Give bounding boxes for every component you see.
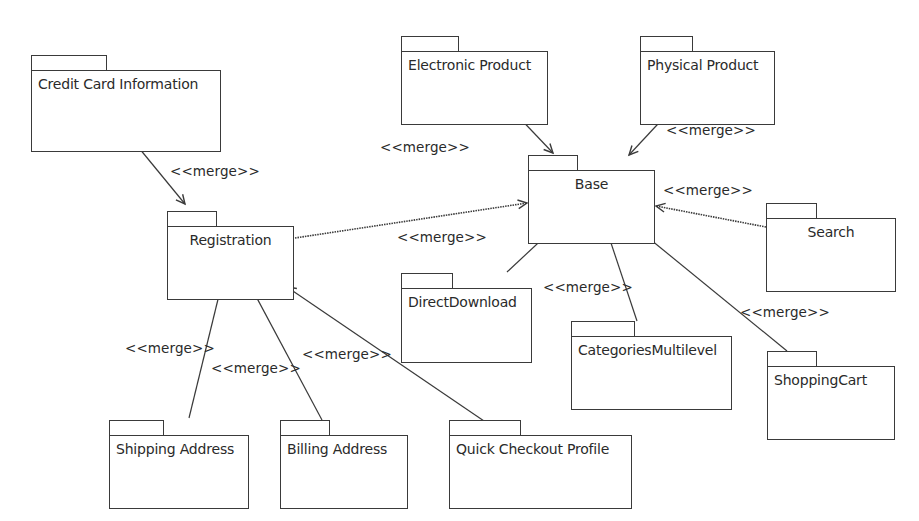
merge-stereotype-label: <<merge>> (125, 340, 215, 356)
merge-stereotype-label: <<merge>> (663, 182, 753, 198)
package-quick-checkout-profile[interactable]: Quick Checkout Profile (449, 420, 632, 509)
package-body: ShoppingCart (767, 366, 895, 440)
package-name: Electronic Product (408, 57, 531, 73)
merge-relation-line (656, 206, 766, 227)
package-tab (401, 36, 459, 51)
merge-stereotype-label: <<merge>> (302, 346, 392, 362)
package-direct-download[interactable]: DirectDownload (401, 273, 532, 363)
package-body: Search (766, 218, 896, 292)
merge-stereotype-label: <<merge>> (380, 139, 470, 155)
open-arrowhead-icon (656, 203, 666, 212)
package-body: CategoriesMultilevel (571, 336, 732, 410)
package-body: Electronic Product (401, 51, 548, 125)
open-arrowhead-icon (544, 143, 553, 153)
package-physical-product[interactable]: Physical Product (640, 36, 775, 125)
package-tab (767, 351, 817, 366)
package-body: Physical Product (640, 51, 775, 125)
package-body: Shipping Address (109, 435, 249, 509)
package-body: Quick Checkout Profile (449, 435, 632, 509)
package-body: Credit Card Information (31, 70, 221, 152)
open-arrowhead-icon (629, 145, 638, 155)
package-electronic-product[interactable]: Electronic Product (401, 36, 548, 125)
package-tab (109, 420, 164, 435)
package-body: Base (528, 170, 655, 244)
package-name: Base (529, 176, 654, 192)
package-name: Search (767, 224, 895, 240)
package-shipping-address[interactable]: Shipping Address (109, 420, 249, 509)
package-shopping-cart[interactable]: ShoppingCart (767, 351, 895, 440)
package-search[interactable]: Search (766, 203, 896, 292)
merge-stereotype-label: <<merge>> (543, 279, 633, 295)
package-tab (401, 273, 453, 288)
package-body: DirectDownload (401, 288, 532, 363)
package-name: Shipping Address (116, 441, 234, 457)
package-body: Registration (167, 226, 294, 300)
package-name: DirectDownload (408, 294, 517, 310)
merge-stereotype-label: <<merge>> (170, 163, 260, 179)
merge-stereotype-label: <<merge>> (740, 304, 830, 320)
package-tab (31, 55, 107, 70)
package-categories-multilevel[interactable]: CategoriesMultilevel (571, 321, 732, 410)
package-credit-card-information[interactable]: Credit Card Information (31, 55, 221, 152)
package-tab (766, 203, 817, 218)
package-tab (280, 420, 330, 435)
package-name: CategoriesMultilevel (578, 342, 717, 358)
package-billing-address[interactable]: Billing Address (280, 420, 408, 509)
package-body: Billing Address (280, 435, 408, 509)
package-name: Quick Checkout Profile (456, 441, 609, 457)
merge-stereotype-label: <<merge>> (211, 360, 301, 376)
package-tab (528, 155, 578, 170)
package-tab (167, 211, 217, 226)
package-name: Registration (168, 232, 293, 248)
package-name: Credit Card Information (38, 76, 198, 92)
package-name: Billing Address (287, 441, 387, 457)
package-tab (571, 321, 635, 336)
open-arrowhead-icon (517, 200, 527, 209)
package-base[interactable]: Base (528, 155, 655, 244)
package-name: ShoppingCart (774, 372, 867, 388)
merge-stereotype-label: <<merge>> (666, 122, 756, 138)
package-registration[interactable]: Registration (167, 211, 294, 300)
package-name: Physical Product (647, 57, 758, 73)
merge-stereotype-label: <<merge>> (397, 229, 487, 245)
open-arrowhead-icon (176, 194, 185, 204)
merge-relation-line (607, 231, 637, 321)
package-tab (449, 420, 521, 435)
package-tab (640, 36, 693, 51)
package-diagram-canvas: Credit Card Information Registration Ele… (0, 0, 919, 521)
